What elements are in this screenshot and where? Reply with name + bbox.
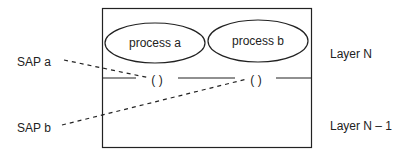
sap-a-label: SAP a bbox=[17, 55, 51, 69]
process-a-label: process a bbox=[129, 36, 181, 50]
sap-b-symbol: ( ) bbox=[250, 73, 261, 87]
sap-a-leader bbox=[64, 60, 150, 78]
process-b-label: process b bbox=[232, 34, 284, 48]
layer-n-minus-1-label: Layer N – 1 bbox=[330, 119, 392, 133]
osi-layer-diagram: process a process b ( ) ( ) SAP a SAP b … bbox=[0, 0, 403, 158]
layer-n-label: Layer N bbox=[330, 47, 372, 61]
sap-b-label: SAP b bbox=[17, 121, 51, 135]
sap-a-symbol: ( ) bbox=[151, 73, 162, 87]
